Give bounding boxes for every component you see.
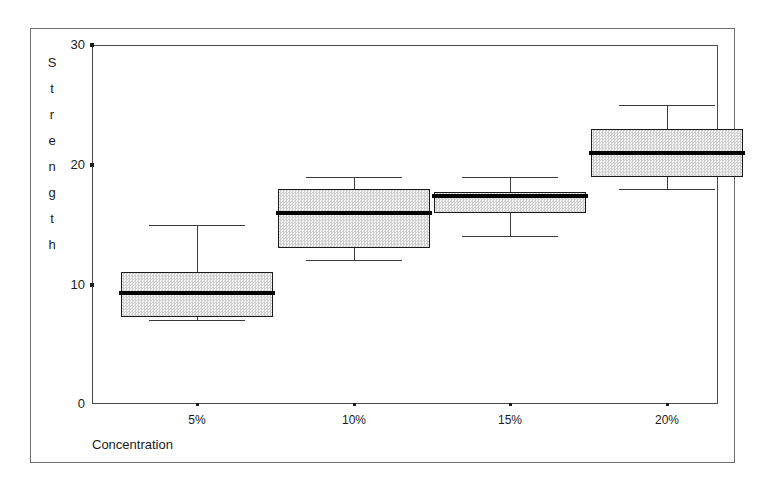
whisker-lower-cap [462, 236, 558, 237]
y-axis-title-letter: t [44, 76, 60, 102]
whisker-lower-stem [667, 177, 668, 189]
y-axis-title-letter: r [44, 102, 60, 128]
y-axis-title: S t r e n g t h [44, 50, 60, 258]
y-tick-label-20: 20 [55, 157, 85, 172]
box-plot-chart: S t r e n g t h 30 20 10 0 5% 10% 15% 20… [0, 0, 764, 480]
y-tick-label-10: 10 [55, 277, 85, 292]
median-line-15% [432, 194, 588, 198]
whisker-upper-cap [462, 177, 558, 178]
x-tick-label-5: 5% [162, 413, 232, 427]
whisker-lower-cap [619, 189, 715, 190]
median-line-5% [119, 291, 275, 295]
y-tick-mark-30 [90, 43, 94, 47]
whisker-upper-cap [619, 105, 715, 106]
whisker-lower-cap [306, 260, 402, 261]
x-axis-title: Concentration [92, 437, 173, 452]
whisker-upper-stem [354, 177, 355, 189]
whisker-upper-cap [306, 177, 402, 178]
y-axis-title-letter: h [44, 232, 60, 258]
x-tick-mark-5 [196, 403, 199, 406]
x-tick-label-10: 10% [319, 413, 389, 427]
y-tick-label-0: 0 [55, 396, 85, 411]
y-tick-mark-10 [90, 283, 94, 287]
median-line-10% [276, 211, 432, 215]
whisker-upper-stem [667, 105, 668, 129]
x-tick-mark-10 [353, 403, 356, 406]
y-tick-label-30: 30 [55, 37, 85, 52]
median-line-20% [589, 151, 745, 155]
y-axis-title-letter: e [44, 128, 60, 154]
y-axis-title-letter: g [44, 180, 60, 206]
x-tick-label-20: 20% [632, 413, 702, 427]
whisker-upper-cap [149, 225, 245, 226]
x-tick-mark-20 [666, 403, 669, 406]
box-10%[interactable] [278, 189, 430, 249]
y-tick-mark-20 [90, 163, 94, 167]
whisker-lower-cap [149, 320, 245, 321]
whisker-lower-stem [354, 248, 355, 260]
y-axis-title-letter: S [44, 50, 60, 76]
whisker-upper-stem [510, 177, 511, 193]
x-tick-mark-15 [509, 403, 512, 406]
whisker-upper-stem [197, 225, 198, 273]
x-tick-label-15: 15% [475, 413, 545, 427]
whisker-lower-stem [510, 213, 511, 237]
y-axis-title-letter: t [44, 206, 60, 232]
